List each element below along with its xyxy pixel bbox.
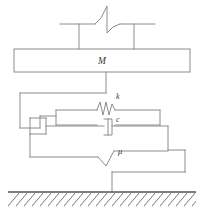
ground-connection <box>112 172 185 192</box>
break-symbol-icon <box>95 6 120 33</box>
ground-hatching <box>8 192 204 206</box>
spring-coil-icon <box>97 102 115 115</box>
spring-branch <box>20 93 160 128</box>
diagram-canvas: M k c μ <box>0 0 204 219</box>
mechanical-model-diagram: M k c μ <box>0 0 204 219</box>
spring-label: k <box>116 92 120 101</box>
friction-branch <box>30 134 168 166</box>
friction-label: μ <box>117 146 122 156</box>
mass-label: M <box>97 56 107 66</box>
ceiling-support <box>60 6 155 49</box>
friction-wedge-icon <box>98 151 114 166</box>
damper-label: c <box>116 115 120 124</box>
